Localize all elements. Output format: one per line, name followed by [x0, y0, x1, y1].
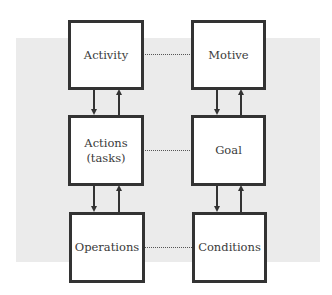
box-activity: Activity: [68, 20, 144, 90]
box-label: Goal: [215, 143, 242, 158]
link-actions-goal: [143, 150, 192, 151]
arrow-motive-to-goal: [216, 89, 218, 110]
arrow-goal-to-motive: [240, 95, 242, 115]
arrow-actions-to-operations: [93, 185, 95, 206]
box-label: Actions (tasks): [84, 136, 127, 166]
arrow-actions-to-activity: [118, 95, 120, 115]
box-actions: Actions (tasks): [68, 115, 144, 186]
box-motive: Motive: [191, 20, 266, 90]
link-operations-conditions: [144, 247, 192, 248]
arrow-conditions-to-goal: [240, 191, 242, 212]
link-activity-motive: [143, 54, 192, 55]
box-goal: Goal: [191, 115, 266, 186]
box-label: Motive: [208, 48, 248, 63]
box-label: Conditions: [198, 240, 261, 255]
box-label: Activity: [84, 48, 128, 63]
box-label: Operations: [75, 240, 139, 255]
arrow-goal-to-conditions: [216, 185, 218, 206]
box-operations: Operations: [69, 212, 145, 283]
box-conditions: Conditions: [192, 212, 267, 283]
arrow-activity-to-actions: [93, 89, 95, 110]
arrow-operations-to-actions: [118, 191, 120, 212]
